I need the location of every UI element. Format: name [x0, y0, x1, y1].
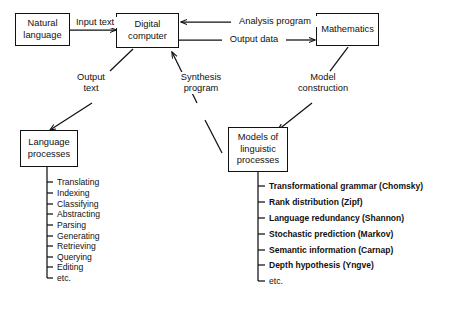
- node-mathematics[interactable]: Mathematics: [316, 13, 379, 46]
- list-item: Language redundancy (Shannon): [269, 214, 404, 223]
- node-models-of-linguistic-processes[interactable]: Models of linguistic processes: [228, 127, 288, 172]
- edge-label-analysis-program: Analysis program: [231, 16, 319, 27]
- edge-synthesis-program-lower: [205, 120, 222, 153]
- node-language-processes[interactable]: Language processes: [20, 130, 78, 167]
- list-item: Generating: [57, 232, 100, 241]
- list-item: Parsing: [57, 221, 86, 230]
- list-item: Translating: [57, 178, 99, 187]
- node-natural-language-label: Natural language: [23, 18, 61, 41]
- list-item: Indexing: [57, 189, 90, 198]
- node-digital-computer[interactable]: Digital computer: [116, 13, 179, 48]
- edge-label-synthesis-program: Synthesis program: [172, 72, 230, 94]
- diagram-canvas: Natural language Digital computer Mathem…: [0, 0, 452, 309]
- node-natural-language[interactable]: Natural language: [15, 13, 70, 46]
- node-digital-computer-label: Digital computer: [128, 19, 167, 42]
- edge-model-construction-upper: [330, 47, 348, 71]
- list-item: etc.: [269, 277, 283, 286]
- node-language-processes-label: Language processes: [28, 137, 70, 160]
- list-item: Retrieving: [57, 242, 96, 251]
- edge-output-text-upper: [110, 49, 133, 71]
- edge-model-construction-to-models: [278, 103, 312, 130]
- list-item: Semantic information (Carnap): [269, 246, 393, 255]
- node-mathematics-label: Mathematics: [321, 24, 374, 35]
- list-item: Editing: [57, 263, 83, 272]
- list-item: Abstracting: [57, 210, 100, 219]
- edge-output-text-to-language-processes: [50, 103, 92, 130]
- list-item: Stochastic prediction (Markov): [269, 230, 393, 239]
- list-item: Querying: [57, 253, 92, 262]
- list-item: Rank distribution (Zipf): [269, 198, 363, 207]
- list-item: Depth hypothesis (Yngve): [269, 261, 374, 270]
- edge-label-model-construction: Model construction: [292, 72, 354, 94]
- edge-label-input-text: Input text: [72, 17, 118, 28]
- list-item: etc.: [57, 274, 71, 283]
- list-item: Classifying: [57, 200, 99, 209]
- edge-label-output-text: Output text: [66, 72, 116, 94]
- list-item: Transformational grammar (Chomsky): [269, 182, 423, 191]
- edge-label-output-data: Output data: [222, 34, 286, 45]
- node-models-of-linguistic-processes-label: Models of linguistic processes: [237, 132, 279, 166]
